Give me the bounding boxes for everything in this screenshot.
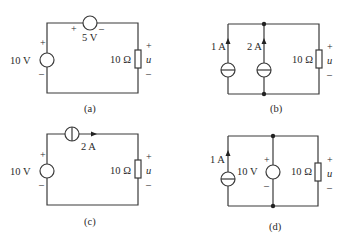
resistor-label: 10 Ω xyxy=(110,54,131,65)
plus-sign: + xyxy=(264,154,270,165)
resistor-icon xyxy=(315,163,321,181)
source-label: 1 A xyxy=(210,154,225,165)
plus-sign: + xyxy=(146,151,152,162)
voltage-source-icon xyxy=(266,165,280,179)
wire xyxy=(228,24,319,50)
circuit-figure: + – 10 V + – 5 V 10 Ω + u – (a) 1 A xyxy=(0,0,348,243)
minus-sign: – xyxy=(98,23,105,34)
wire xyxy=(228,68,319,94)
minus-sign: – xyxy=(145,68,152,79)
wire xyxy=(47,67,138,93)
plus-sign: + xyxy=(146,40,152,51)
node-dot xyxy=(271,134,275,138)
voltage-source-icon xyxy=(40,164,54,178)
resistor-label: 10 Ω xyxy=(291,166,312,177)
minus-sign: – xyxy=(38,68,45,79)
resistor-icon xyxy=(135,160,141,178)
source-label: 2 A xyxy=(247,41,262,52)
plus-sign: + xyxy=(40,37,46,48)
minus-sign: – xyxy=(326,69,333,80)
minus-sign: – xyxy=(145,179,152,190)
circuit-b: 1 A 2 A 10 Ω + u – (b) xyxy=(211,22,333,115)
arrow-up-icon xyxy=(226,150,231,156)
source-label: 10 V xyxy=(237,166,258,177)
minus-sign: – xyxy=(326,182,333,193)
wire xyxy=(47,178,138,205)
source-label: 1 A xyxy=(211,41,226,52)
arrow-up-icon xyxy=(226,38,231,44)
plus-sign: + xyxy=(327,154,333,165)
plus-sign: + xyxy=(71,23,77,34)
output-variable: u xyxy=(327,55,332,66)
voltage-source-icon xyxy=(40,53,54,67)
minus-sign: – xyxy=(263,180,270,191)
resistor-label: 10 Ω xyxy=(110,165,131,176)
circuit-d: 1 A 10 V + – 10 Ω + u – (d) xyxy=(210,134,333,233)
source-label: 10 V xyxy=(10,166,31,177)
output-variable: u xyxy=(327,168,332,179)
source-label: 5 V xyxy=(82,32,98,43)
plus-sign: + xyxy=(40,149,46,160)
circuit-c: + – 10 V 2 A 10 Ω + u – (c) xyxy=(10,127,152,228)
panel-caption: (a) xyxy=(84,103,96,115)
resistor-icon xyxy=(316,50,322,68)
panel-caption: (d) xyxy=(269,221,282,233)
arrow-right-icon xyxy=(91,132,97,137)
panel-caption: (b) xyxy=(270,103,283,115)
node-dot xyxy=(262,22,266,26)
voltage-source-icon xyxy=(83,16,97,30)
source-label: 10 V xyxy=(10,55,31,66)
plus-sign: + xyxy=(327,41,333,52)
source-label: 2 A xyxy=(81,141,96,152)
node-dot xyxy=(271,204,275,208)
resistor-icon xyxy=(135,50,141,68)
wire xyxy=(47,23,83,53)
wire xyxy=(47,134,65,164)
resistor-label: 10 Ω xyxy=(292,54,313,65)
minus-sign: – xyxy=(38,179,45,190)
output-variable: u xyxy=(146,165,151,176)
arrow-up-icon xyxy=(262,38,267,44)
output-variable: u xyxy=(146,54,151,65)
panel-caption: (c) xyxy=(84,216,96,228)
node-dot xyxy=(262,92,266,96)
circuit-a: + – 10 V + – 5 V 10 Ω + u – (a) xyxy=(10,16,152,115)
